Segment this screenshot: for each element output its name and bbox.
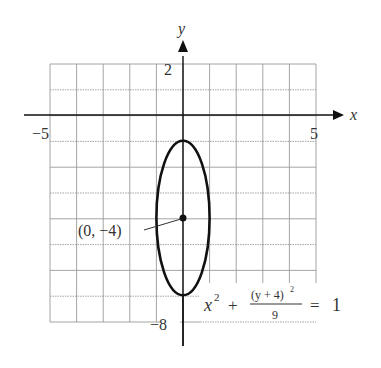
- center-label: (0, −4): [78, 222, 122, 240]
- center-point: [180, 215, 187, 222]
- y-axis-label: y: [176, 20, 186, 38]
- x-tick-label-neg5: −5: [32, 125, 49, 142]
- equation-x-exponent: 2: [214, 291, 220, 303]
- equation-denominator: 9: [272, 308, 278, 322]
- equation-numerator-exponent: 2: [290, 285, 294, 294]
- y-tick-label-neg8: −8: [150, 316, 167, 333]
- center-leader-line: [144, 219, 181, 230]
- equation-equals: =: [310, 296, 320, 315]
- y-tick-label-2: 2: [164, 61, 172, 78]
- equation-rhs: 1: [332, 295, 341, 315]
- equation-x: x: [203, 295, 212, 315]
- ellipse-graph: x y −5 5 2 (0, −4) −8 x 2 + (y + 4) 2 9 …: [0, 0, 381, 368]
- equation-numerator: (y + 4): [251, 288, 284, 302]
- x-axis-arrow-icon: [333, 110, 344, 120]
- equation-plus: +: [228, 296, 238, 315]
- y-axis-arrow-icon: [178, 40, 188, 52]
- x-tick-label-5: 5: [310, 125, 318, 142]
- x-axis-label: x: [349, 106, 357, 123]
